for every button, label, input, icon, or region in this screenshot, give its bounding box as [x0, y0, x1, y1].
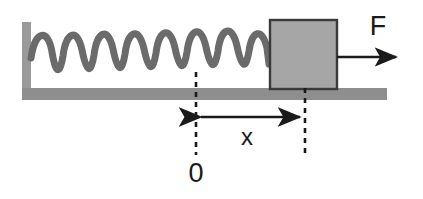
displacement-label: x: [241, 123, 253, 150]
physics-diagram-root: F x 0: [0, 0, 423, 199]
spring-block-force-diagram: F x 0: [0, 0, 423, 199]
force-label: F: [370, 11, 387, 41]
origin-label: 0: [188, 158, 203, 188]
block: [270, 20, 337, 89]
